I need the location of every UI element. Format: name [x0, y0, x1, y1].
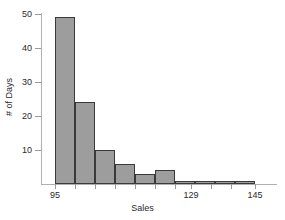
histogram-bar [55, 17, 75, 184]
histogram-bar [155, 170, 175, 184]
histogram-chart: 1020304050 95129145 Sales # of Days [0, 0, 285, 220]
histogram-bar [135, 174, 155, 184]
y-axis-title: # of Days [4, 67, 14, 127]
histogram-bar [235, 181, 255, 184]
bars-layer [0, 0, 285, 220]
histogram-bar [95, 150, 115, 184]
histogram-bar [215, 181, 235, 184]
histogram-bar [175, 181, 195, 184]
histogram-bar [75, 102, 95, 184]
histogram-bar [195, 181, 215, 184]
histogram-bar [115, 164, 135, 184]
x-axis-title: Sales [0, 203, 285, 213]
